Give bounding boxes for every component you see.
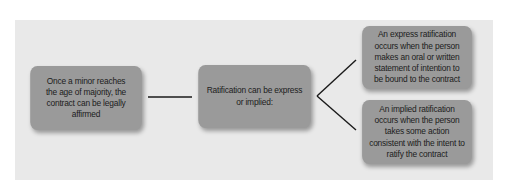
connector-ratification-to-implied <box>317 96 356 130</box>
connector-ratification-to-express <box>317 60 356 96</box>
node-express-ratification: An express ratification occurs when the … <box>362 26 472 89</box>
node-text: Once a minor reaches the age of majority… <box>37 76 134 121</box>
node-ratification: Ratification can be express or implied: <box>198 65 311 128</box>
node-minor-majority: Once a minor reaches the age of majority… <box>30 66 142 130</box>
node-text: Ratification can be express or implied: <box>201 85 307 107</box>
node-text: An implied ratification occurs when the … <box>365 104 469 160</box>
node-text: An express ratification occurs when the … <box>366 29 468 85</box>
node-implied-ratification: An implied ratification occurs when the … <box>362 100 472 164</box>
